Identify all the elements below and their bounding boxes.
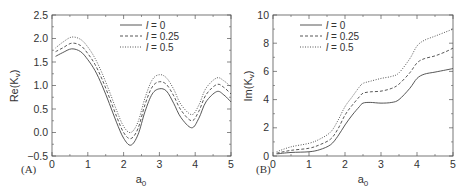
y-tick-label: 10 (257, 9, 269, 21)
y-tick-label: −0.5 (27, 150, 48, 162)
y-tick-label: 6 (263, 65, 269, 77)
panel-a-ylabel: Re(Kv) (8, 70, 22, 103)
y-tick-label: 0 (263, 150, 269, 162)
x-tick-label: 4 (192, 158, 198, 170)
panel-b-ylabel: Im(Kv) (242, 71, 256, 102)
x-tick-label: 4 (414, 158, 420, 170)
panel-b-xlabel: a0 (358, 173, 369, 188)
curve-solid (277, 69, 453, 154)
x-tick-label: 0 (270, 158, 276, 170)
panel-b-chart: 0123450246810 l = 0l = 0.25l = 0.5 Im(Kv… (242, 9, 456, 189)
panel-a-chart: 012345−0.50.00.51.01.52.02.5 l = 0l = 0.… (8, 9, 234, 189)
legend-label: l = 0.5 (326, 42, 354, 53)
x-tick-label: 3 (156, 158, 162, 170)
y-tick-label: 2.5 (33, 9, 48, 21)
curve-dotted (277, 29, 453, 152)
y-tick-label: 8 (263, 37, 269, 49)
panel-a-xlabel: a0 (136, 173, 147, 188)
panel-a-curves (56, 37, 231, 145)
panel-a-label: (A) (21, 163, 37, 176)
curve-dashed (56, 43, 231, 139)
x-tick-label: 1 (85, 158, 91, 170)
y-tick-label: 0.5 (33, 103, 48, 115)
legend-label: l = 0.25 (326, 31, 360, 42)
y-tick-label: 1.5 (33, 56, 48, 68)
y-tick-label: 0.0 (33, 126, 48, 138)
x-tick-label: 5 (228, 158, 234, 170)
x-tick-label: 0 (49, 158, 55, 170)
x-tick-label: 1 (306, 158, 312, 170)
curve-dashed (277, 48, 453, 153)
y-tick-label: 4 (263, 93, 269, 105)
y-tick-label: 2 (263, 121, 269, 133)
figure: 012345−0.50.00.51.01.52.02.5 l = 0l = 0.… (0, 0, 467, 193)
panel-b-label: (B) (256, 163, 271, 176)
legend-label: l = 0.5 (146, 42, 174, 53)
x-tick-label: 5 (450, 158, 456, 170)
panel-a-legend: l = 0l = 0.25l = 0.5 (120, 20, 180, 53)
x-tick-label: 2 (342, 158, 348, 170)
legend-label: l = 0 (146, 20, 166, 31)
legend-label: l = 0.25 (146, 31, 180, 42)
panel-a-ticks: 012345−0.50.00.51.01.52.02.5 (27, 9, 234, 171)
legend-label: l = 0 (326, 20, 346, 31)
panel-b-legend: l = 0l = 0.25l = 0.5 (300, 20, 360, 53)
panel-b-curves (277, 29, 453, 154)
x-tick-label: 2 (121, 158, 127, 170)
y-tick-label: 1.0 (33, 79, 48, 91)
y-tick-label: 2.0 (33, 32, 48, 44)
x-tick-label: 3 (378, 158, 384, 170)
